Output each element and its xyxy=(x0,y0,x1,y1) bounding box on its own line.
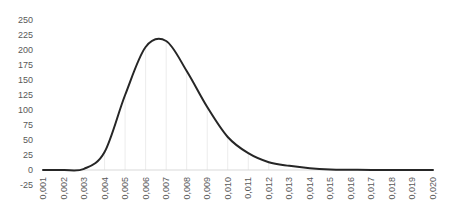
x-tick-label: 0,013 xyxy=(284,177,294,200)
y-tick-label: 250 xyxy=(18,15,33,25)
x-axis-labels: 0,0010,0020,0030,0040,0050,0060,0070,008… xyxy=(38,177,438,200)
y-tick-label: 225 xyxy=(18,30,33,40)
y-tick-label: 0 xyxy=(28,165,33,175)
y-tick-label: 150 xyxy=(18,75,33,85)
x-tick-label: 0,008 xyxy=(182,177,192,200)
x-tick-label: 0,009 xyxy=(202,177,212,200)
y-tick-label: 25 xyxy=(23,150,33,160)
x-tick-label: 0,017 xyxy=(366,177,376,200)
y-tick-label: -25 xyxy=(20,180,33,190)
x-tick-label: 0,005 xyxy=(120,177,130,200)
x-tick-label: 0,003 xyxy=(79,177,89,200)
x-tick-label: 0,007 xyxy=(161,177,171,200)
y-tick-label: 100 xyxy=(18,105,33,115)
y-tick-label: 200 xyxy=(18,45,33,55)
x-tick-label: 0,011 xyxy=(243,177,253,199)
x-tick-label: 0,001 xyxy=(38,177,48,200)
y-tick-label: 50 xyxy=(23,135,33,145)
x-tick-label: 0,010 xyxy=(223,177,233,200)
x-tick-label: 0,016 xyxy=(346,177,356,200)
y-tick-label: 175 xyxy=(18,60,33,70)
x-tick-label: 0,002 xyxy=(59,177,69,200)
x-tick-label: 0,004 xyxy=(100,177,110,200)
y-tick-label: 125 xyxy=(18,90,33,100)
x-tick-label: 0,018 xyxy=(387,177,397,200)
x-tick-label: 0,014 xyxy=(305,177,315,200)
y-axis-labels: 2502252001751501251007550250-25 xyxy=(18,15,33,190)
x-tick-label: 0,020 xyxy=(428,177,438,200)
x-tick-label: 0,019 xyxy=(407,177,417,200)
x-tick-label: 0,015 xyxy=(325,177,335,200)
y-tick-label: 75 xyxy=(23,120,33,130)
x-tick-label: 0,006 xyxy=(141,177,151,200)
x-tick-label: 0,012 xyxy=(264,177,274,200)
line-chart: 2502252001751501251007550250-25 0,0010,0… xyxy=(0,0,453,213)
data-line-series-1 xyxy=(43,39,433,171)
